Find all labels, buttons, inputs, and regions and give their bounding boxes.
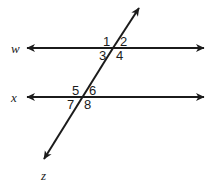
geometry-diagram: w x z 1 2 3 4 5 6 7 8 <box>0 0 214 191</box>
transversal-line-z <box>44 48 113 159</box>
angle-label-4: 4 <box>116 48 123 63</box>
geometry-figure: w x z 1 2 3 4 5 6 7 8 <box>0 0 214 191</box>
angle-label-5: 5 <box>72 83 79 98</box>
label-line-w: w <box>11 41 20 56</box>
angle-label-7: 7 <box>67 97 74 112</box>
angle-label-6: 6 <box>89 83 96 98</box>
angle-label-3: 3 <box>99 48 106 63</box>
angle-label-8: 8 <box>84 97 91 112</box>
label-line-z: z <box>40 168 46 183</box>
angle-label-2: 2 <box>120 34 127 49</box>
angle-label-1: 1 <box>103 34 110 49</box>
label-line-x: x <box>10 90 17 105</box>
